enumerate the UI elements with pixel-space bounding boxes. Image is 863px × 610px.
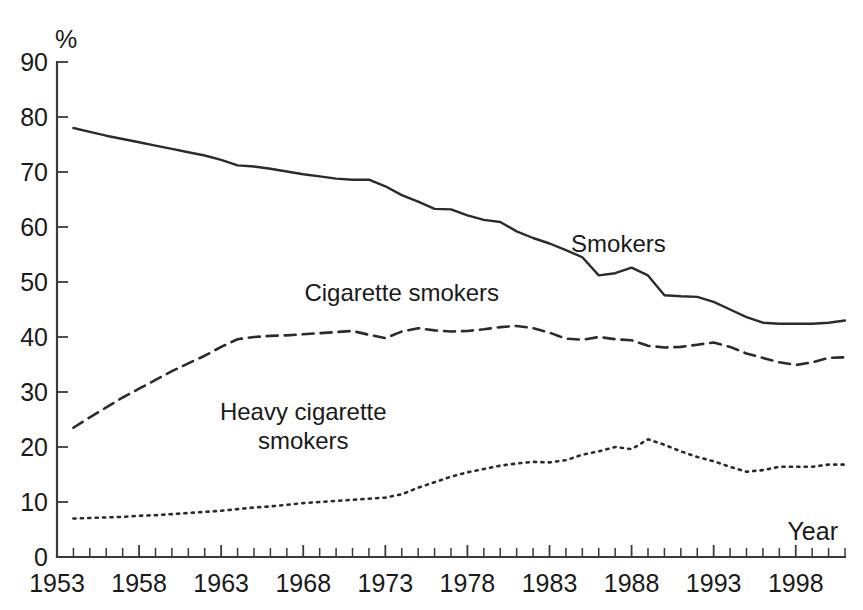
x-tick-label: 1973: [358, 569, 414, 597]
x-tick-label: 1968: [275, 569, 331, 597]
x-axis-minor-ticks: [57, 545, 845, 557]
series-label-line: Smokers: [571, 230, 666, 257]
y-tick-label: 80: [20, 103, 48, 131]
x-axis-title: Year: [787, 517, 838, 545]
y-tick-label: 10: [20, 488, 48, 516]
y-tick-label: 0: [34, 543, 48, 571]
y-axis: 0102030405060708090 %: [20, 25, 77, 571]
series-label-line: Heavy cigarette: [220, 398, 387, 425]
y-tick-label: 20: [20, 433, 48, 461]
series-label-smokers: Smokers: [571, 230, 666, 257]
chart-container: 0102030405060708090 % 195319581963196819…: [0, 0, 863, 610]
series-label-heavy-cigarette-smokers: Heavy cigarettesmokers: [220, 398, 387, 454]
x-axis-tick-labels: 1953195819631968197319781983198819931998: [29, 569, 823, 597]
series-line-cigarette-smokers: [73, 326, 845, 428]
series-annotation-labels: SmokersCigarette smokersHeavy cigarettes…: [220, 230, 666, 454]
x-tick-label: 1988: [604, 569, 660, 597]
series-label-line: smokers: [258, 427, 349, 454]
x-tick-label: 1953: [29, 569, 85, 597]
x-tick-label: 1993: [686, 569, 742, 597]
x-tick-label: 1978: [440, 569, 496, 597]
series-label-line: Cigarette smokers: [304, 279, 499, 306]
x-tick-label: 1998: [768, 569, 824, 597]
y-tick-label: 50: [20, 268, 48, 296]
y-tick-label: 40: [20, 323, 48, 351]
y-axis-ticks: [57, 62, 68, 557]
y-tick-label: 90: [20, 48, 48, 76]
y-axis-tick-labels: 0102030405060708090: [20, 48, 48, 571]
y-tick-label: 30: [20, 378, 48, 406]
y-tick-label: 70: [20, 158, 48, 186]
x-axis: 1953195819631968197319781983198819931998…: [29, 517, 845, 597]
data-series-group: [73, 128, 845, 519]
x-tick-label: 1958: [111, 569, 167, 597]
x-tick-label: 1963: [193, 569, 249, 597]
line-chart: 0102030405060708090 % 195319581963196819…: [0, 0, 863, 610]
y-tick-label: 60: [20, 213, 48, 241]
series-label-cigarette-smokers: Cigarette smokers: [304, 279, 499, 306]
y-axis-title: %: [55, 25, 77, 53]
series-line-heavy-cigarette-smokers: [73, 439, 845, 518]
x-tick-label: 1983: [522, 569, 578, 597]
